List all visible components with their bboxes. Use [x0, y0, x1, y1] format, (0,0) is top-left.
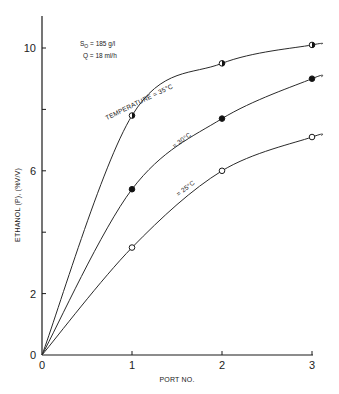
- series-group: TEMPERATURE = 35°C= 30°C= 25°C: [42, 42, 323, 355]
- ticks: 012302610: [24, 42, 315, 371]
- annotation-flow-rate: Q = 18 ml/h: [83, 52, 117, 60]
- data-point: [219, 168, 225, 174]
- series-label: = 25°C: [175, 179, 196, 198]
- series-line: [42, 75, 323, 355]
- data-point: [129, 245, 135, 251]
- series-label: TEMPERATURE = 35°C: [104, 82, 174, 121]
- x-tick-label: 0: [39, 359, 45, 371]
- y-tick-label: 6: [30, 165, 36, 177]
- series-line: [42, 134, 323, 355]
- data-point: [309, 76, 315, 82]
- annotations: SO = 185 g/l Q = 18 ml/h: [80, 40, 117, 60]
- x-tick-label: 3: [309, 359, 315, 371]
- data-point: [219, 116, 225, 122]
- data-point: [309, 42, 315, 48]
- data-point: [129, 113, 135, 119]
- data-point: [129, 186, 135, 192]
- y-tick-label: 10: [24, 42, 36, 54]
- y-axis-title: ETHANOL (P), (%V/V): [14, 168, 22, 242]
- data-point: [309, 134, 315, 140]
- data-point: [219, 61, 225, 67]
- x-tick-label: 1: [129, 359, 135, 371]
- series-line: [42, 43, 323, 355]
- y-tick-label: 2: [30, 288, 36, 300]
- x-axis-title: PORT NO.: [159, 376, 194, 383]
- series-label: = 30°C: [171, 131, 192, 149]
- chart: 012302610 PORT NO. ETHANOL (P), (%V/V) S…: [0, 0, 339, 394]
- y-tick-label: 0: [30, 349, 36, 361]
- annotation-substrate: SO = 185 g/l: [80, 40, 116, 49]
- x-tick-label: 2: [219, 359, 225, 371]
